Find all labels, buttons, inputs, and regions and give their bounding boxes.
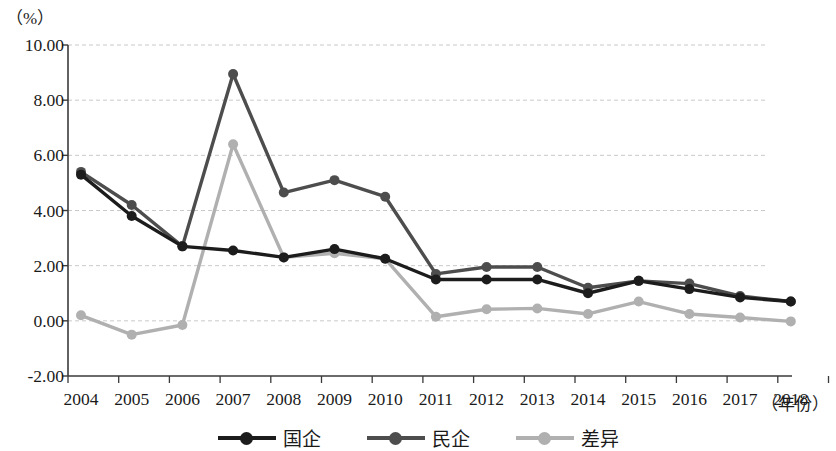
data-point (228, 69, 238, 79)
legend-item-国企[interactable]: 国企 (218, 424, 321, 451)
data-point (279, 188, 289, 198)
legend-marker-icon (516, 430, 574, 446)
y-axis-tick-labels: -2.000.002.004.006.008.0010.00 (0, 0, 64, 451)
data-point (380, 254, 390, 264)
data-point (228, 139, 238, 149)
data-point (532, 262, 542, 272)
legend-item-差异[interactable]: 差异 (516, 424, 619, 451)
y-axis-tick-label: 4.00 (2, 200, 64, 221)
axis-ticks (62, 45, 829, 383)
legend-label: 差异 (581, 424, 619, 451)
data-point (127, 330, 137, 340)
data-point (634, 276, 644, 286)
legend-item-民企[interactable]: 民企 (367, 424, 470, 451)
y-axis-tick-label: 6.00 (2, 145, 64, 166)
y-axis-tick-label: -2.00 (2, 366, 64, 387)
data-point (177, 241, 187, 251)
series-民企 (76, 69, 796, 307)
data-point (735, 292, 745, 302)
legend-marker-icon (367, 430, 425, 446)
legend-label: 民企 (432, 424, 470, 451)
data-point (279, 252, 289, 262)
data-point (431, 274, 441, 284)
x-axis-unit-label: （年份） (761, 390, 829, 415)
series-layer (76, 69, 796, 340)
y-axis-tick-label: 10.00 (2, 35, 64, 56)
data-point (532, 274, 542, 284)
data-point (786, 316, 796, 326)
data-point (634, 297, 644, 307)
data-point (330, 175, 340, 185)
data-point (583, 288, 593, 298)
series-line (81, 74, 791, 302)
data-point (684, 309, 694, 319)
data-point (76, 170, 86, 180)
chart-legend: 国企民企差异 (0, 424, 836, 451)
y-axis-tick-label: 2.00 (2, 255, 64, 276)
gridlines (68, 45, 766, 321)
data-point (127, 200, 137, 210)
plot-area (0, 0, 836, 451)
data-point (786, 297, 796, 307)
data-point (177, 320, 187, 330)
data-point (583, 309, 593, 319)
data-point (684, 284, 694, 294)
data-point (228, 246, 238, 256)
data-point (431, 312, 441, 322)
data-point (482, 304, 492, 314)
legend-label: 国企 (283, 424, 321, 451)
data-point (76, 310, 86, 320)
line-chart: （%） -2.000.002.004.006.008.0010.00 20042… (0, 0, 836, 451)
data-point (532, 303, 542, 313)
data-point (482, 274, 492, 284)
data-point (380, 192, 390, 202)
y-axis-tick-label: 8.00 (2, 90, 64, 111)
y-axis-tick-label: 0.00 (2, 310, 64, 331)
data-point (735, 313, 745, 323)
data-point (127, 211, 137, 221)
series-line (81, 144, 791, 334)
legend-marker-icon (218, 430, 276, 446)
data-point (330, 244, 340, 254)
data-point (482, 262, 492, 272)
